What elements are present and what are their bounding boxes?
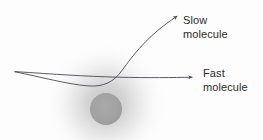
fast-molecule-label-line2: molecule [203,81,248,95]
fast-molecule-label: Fast molecule [203,67,248,94]
slow-molecule-label-line2: molecule [183,28,228,42]
slow-molecule-label-line1: Slow [183,14,228,28]
molecule-scattering-diagram: Slow molecule Fast molecule [0,0,263,140]
attraction-field-halo [44,42,168,140]
central-particle-circle [90,93,122,125]
slow-molecule-label: Slow molecule [183,14,228,41]
fast-molecule-label-line1: Fast [203,67,248,81]
